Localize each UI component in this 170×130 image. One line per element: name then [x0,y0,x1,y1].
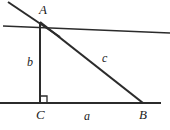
side-label-c: c [102,52,107,64]
geometry-figure: A B C a b c [0,0,170,130]
side-label-a: a [84,110,90,122]
side-label-b: b [27,56,33,68]
transversal-line [3,26,170,33]
vertex-label-c: C [36,108,45,121]
vertex-label-a: A [39,3,47,16]
triangle-hypotenuse-c-line [40,22,143,103]
vertex-label-b: B [139,108,147,121]
